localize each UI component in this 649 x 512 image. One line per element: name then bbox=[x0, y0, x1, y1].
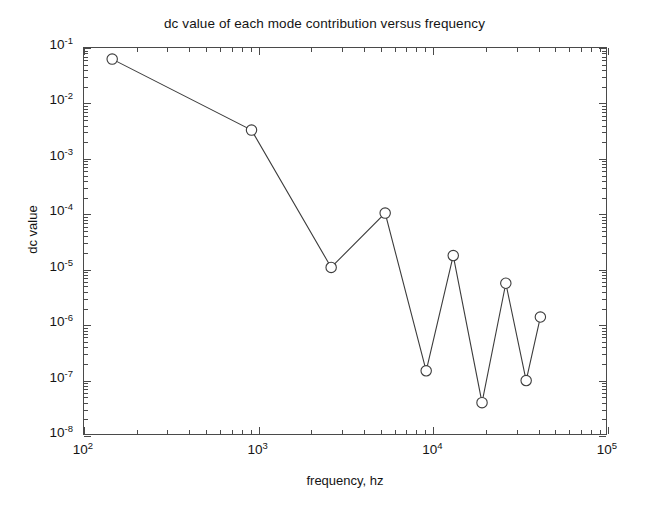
x-tick-label: 103 bbox=[247, 442, 267, 457]
tick-mark bbox=[84, 236, 88, 237]
tick-mark bbox=[84, 403, 88, 404]
tick-mark bbox=[242, 430, 243, 434]
tick-mark bbox=[84, 109, 88, 110]
tick-mark bbox=[84, 198, 88, 199]
tick-mark bbox=[425, 48, 426, 52]
tick-mark bbox=[602, 87, 606, 88]
tick-mark bbox=[84, 57, 88, 58]
tick-mark bbox=[84, 354, 88, 355]
plot-area bbox=[83, 47, 607, 435]
tick-mark bbox=[84, 243, 88, 244]
tick-mark bbox=[84, 103, 91, 104]
tick-mark bbox=[84, 87, 88, 88]
tick-mark bbox=[84, 220, 88, 221]
x-tick-label: 105 bbox=[597, 442, 617, 457]
tick-mark bbox=[602, 292, 606, 293]
tick-mark bbox=[84, 278, 88, 279]
x-tick-label: 104 bbox=[422, 442, 442, 457]
tick-mark bbox=[602, 198, 606, 199]
tick-mark bbox=[517, 48, 518, 52]
tick-mark bbox=[364, 430, 365, 434]
tick-mark bbox=[84, 142, 88, 143]
tick-mark bbox=[602, 176, 606, 177]
tick-mark bbox=[84, 282, 88, 283]
tick-mark bbox=[581, 48, 582, 52]
data-point bbox=[326, 262, 336, 272]
data-point bbox=[521, 375, 531, 385]
tick-mark bbox=[602, 57, 606, 58]
tick-mark bbox=[569, 48, 570, 52]
tick-mark bbox=[84, 286, 88, 287]
tick-mark bbox=[84, 309, 88, 310]
tick-mark bbox=[137, 430, 138, 434]
tick-mark bbox=[84, 419, 88, 420]
tick-mark bbox=[84, 275, 88, 276]
tick-mark bbox=[602, 354, 606, 355]
tick-mark bbox=[84, 116, 88, 117]
tick-mark bbox=[167, 430, 168, 434]
tick-mark bbox=[84, 48, 91, 49]
tick-mark bbox=[602, 383, 606, 384]
tick-mark bbox=[84, 381, 91, 382]
tick-mark bbox=[602, 70, 606, 71]
tick-mark bbox=[602, 389, 606, 390]
data-point bbox=[246, 125, 256, 135]
y-tick-label: 10-1 bbox=[50, 37, 73, 52]
series-markers bbox=[107, 54, 546, 408]
tick-mark bbox=[220, 48, 221, 52]
tick-mark bbox=[600, 430, 601, 434]
tick-mark bbox=[84, 159, 91, 160]
tick-mark bbox=[602, 217, 606, 218]
tick-mark bbox=[602, 309, 606, 310]
tick-mark bbox=[591, 430, 592, 434]
data-point bbox=[448, 250, 458, 260]
tick-mark bbox=[84, 299, 88, 300]
tick-mark bbox=[232, 430, 233, 434]
tick-mark bbox=[232, 48, 233, 52]
data-series-canvas bbox=[84, 48, 608, 436]
tick-mark bbox=[84, 386, 88, 387]
data-point bbox=[535, 312, 545, 322]
tick-mark bbox=[569, 430, 570, 434]
tick-mark bbox=[602, 231, 606, 232]
tick-mark bbox=[555, 430, 556, 434]
figure-canvas: dc value of each mode contribution versu… bbox=[0, 0, 649, 512]
tick-mark bbox=[599, 103, 606, 104]
tick-mark bbox=[539, 48, 540, 52]
tick-mark bbox=[602, 227, 606, 228]
tick-mark bbox=[84, 167, 88, 168]
tick-mark bbox=[486, 430, 487, 434]
tick-mark bbox=[84, 331, 88, 332]
tick-mark bbox=[84, 272, 88, 273]
tick-mark bbox=[84, 270, 91, 271]
tick-mark bbox=[84, 181, 88, 182]
tick-mark bbox=[602, 120, 606, 121]
tick-mark bbox=[599, 159, 606, 160]
tick-mark bbox=[602, 161, 606, 162]
tick-mark bbox=[602, 275, 606, 276]
tick-mark bbox=[602, 419, 606, 420]
y-tick-label: 10-3 bbox=[50, 148, 73, 163]
tick-mark bbox=[602, 334, 606, 335]
tick-mark bbox=[220, 430, 221, 434]
tick-mark bbox=[395, 430, 396, 434]
x-tick-label: 102 bbox=[73, 442, 93, 457]
tick-mark bbox=[84, 48, 85, 55]
tick-mark bbox=[311, 430, 312, 434]
tick-mark bbox=[189, 48, 190, 52]
tick-mark bbox=[602, 132, 606, 133]
tick-mark bbox=[602, 347, 606, 348]
tick-mark bbox=[416, 48, 417, 52]
y-tick-label: 10-4 bbox=[50, 203, 73, 218]
tick-mark bbox=[600, 48, 601, 52]
tick-mark bbox=[602, 112, 606, 113]
tick-mark bbox=[602, 126, 606, 127]
tick-mark bbox=[602, 60, 606, 61]
y-axis-title: dc value bbox=[25, 180, 40, 280]
data-point bbox=[107, 54, 117, 64]
tick-mark bbox=[602, 77, 606, 78]
tick-mark bbox=[599, 381, 606, 382]
tick-mark bbox=[602, 364, 606, 365]
tick-mark bbox=[486, 48, 487, 52]
tick-mark bbox=[555, 48, 556, 52]
